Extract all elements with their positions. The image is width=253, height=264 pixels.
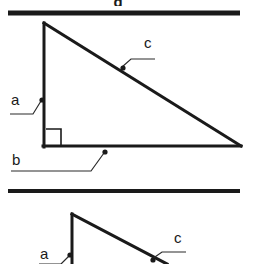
middle-horizontal-rule bbox=[8, 189, 240, 193]
label-a-top-text: a bbox=[11, 91, 20, 108]
page-background bbox=[0, 0, 253, 264]
figure-canvas: g a b c bbox=[0, 0, 253, 264]
top-horizontal-rule bbox=[8, 11, 240, 16]
label-c-top-anchor-dot bbox=[120, 65, 125, 70]
geometry-figure: g a b c bbox=[0, 0, 253, 264]
label-a-bottom-text: a bbox=[40, 245, 49, 262]
label-b-top-text: b bbox=[12, 151, 20, 168]
label-b-top-anchor-dot bbox=[102, 149, 107, 154]
label-a-bottom-anchor-dot bbox=[67, 252, 72, 257]
label-a-top-anchor-dot bbox=[39, 97, 44, 102]
label-c-top-text: c bbox=[144, 34, 152, 51]
label-c-bottom-text: c bbox=[174, 229, 182, 246]
label-c-bottom-anchor-dot bbox=[150, 257, 155, 262]
